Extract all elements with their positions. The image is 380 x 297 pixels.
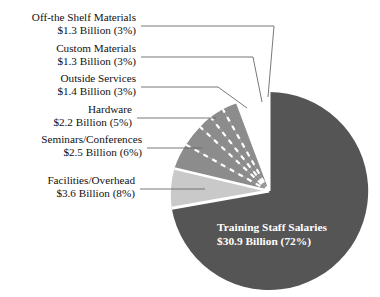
- callout-hardware: Hardware $2.2 Billion (5%): [53, 103, 132, 129]
- callout-custom-materials: Custom Materials $1.3 Billion (3%): [56, 42, 136, 68]
- leader-line-outside-services: [141, 87, 247, 108]
- callout-label-name: Custom Materials: [56, 42, 136, 55]
- callout-label-value: $1.4 Billion (3%): [57, 85, 136, 98]
- callout-label-name: Outside Services: [57, 72, 136, 85]
- callout-label-name: Off-the Shelf Materials: [32, 11, 136, 24]
- callout-label-value: $1.3 Billion (3%): [56, 55, 136, 68]
- callout-label-value: $2.5 Billion (6%): [41, 146, 142, 159]
- callout-label-name: Facilities/Overhead: [47, 174, 135, 187]
- callout-seminars-conferences: Seminars/Conferences $2.5 Billion (6%): [41, 133, 142, 159]
- callout-facilities-overhead: Facilities/Overhead $3.6 Billion (8%): [47, 174, 135, 200]
- inner-label-training-staff-salaries: Training Staff Salaries $30.9 Billion (7…: [217, 221, 327, 248]
- callout-off-the-shelf-materials: Off-the Shelf Materials $1.3 Billion (3%…: [32, 11, 136, 37]
- pie-chart-figure: Off-the Shelf Materials $1.3 Billion (3%…: [0, 0, 380, 297]
- callout-label-value: $3.6 Billion (8%): [47, 187, 135, 200]
- leader-line-custom-materials: [141, 57, 262, 102]
- callout-label-value: $2.2 Billion (5%): [53, 116, 132, 129]
- callout-label-value: $1.3 Billion (3%): [32, 24, 136, 37]
- callout-outside-services: Outside Services $1.4 Billion (3%): [57, 72, 136, 98]
- inner-label-name: Training Staff Salaries: [217, 221, 327, 235]
- callout-label-name: Hardware: [53, 103, 132, 116]
- inner-label-value: $30.9 Billion (72%): [217, 235, 327, 249]
- callout-label-name: Seminars/Conferences: [41, 133, 142, 146]
